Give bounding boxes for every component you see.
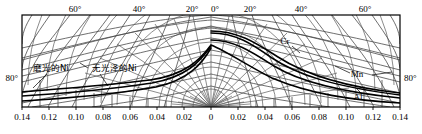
right-side-label-80deg: 80° (404, 73, 417, 83)
top-tick-label-4: 20° (244, 4, 257, 14)
bottom-tick-label-3: 0.08 (95, 112, 111, 122)
top-tick-label-3: 0° (211, 4, 220, 14)
polar-nomogram-plot: 60° 40° 20° 0° 20° 40° 60° 0.14 0.12 0.1… (0, 0, 422, 134)
bottom-tick-label-13: 0.12 (365, 112, 381, 122)
top-tick-label-5: 40° (295, 4, 308, 14)
bottom-tick-label-5: 0.04 (149, 112, 165, 122)
bottom-tick-label-0: 0.14 (14, 112, 30, 122)
bottom-tick-label-14: 0.14 (392, 112, 408, 122)
bottom-tick-label-11: 0.08 (311, 112, 327, 122)
top-tick-label-0: 60° (69, 4, 82, 14)
annotation-ni-polished: 磨光的Ni (33, 63, 69, 73)
bottom-tick-label-1: 0.12 (41, 112, 57, 122)
annotation-ni-matte: 无光泽的Ni (92, 63, 137, 73)
top-tick-label-6: 60° (359, 4, 372, 14)
annotation-cr: Cr (281, 36, 290, 46)
bottom-axis-labels: 0.14 0.12 0.10 0.08 0.06 0.04 0.02 0 0.0… (14, 112, 408, 122)
bottom-tick-label-8: 0.02 (230, 112, 246, 122)
annotation-al: Al (354, 92, 363, 102)
bottom-tick-label-2: 0.10 (68, 112, 84, 122)
bottom-tick-label-4: 0.06 (122, 112, 138, 122)
top-tick-label-2: 20° (186, 4, 199, 14)
figure-container: 60° 40° 20° 0° 20° 40° 60° 0.14 0.12 0.1… (0, 0, 422, 134)
annotation-mn: Mn (351, 69, 364, 79)
bottom-tick-label-7: 0 (209, 112, 214, 122)
bottom-tick-label-6: 0.02 (176, 112, 192, 122)
bottom-tick-label-12: 0.10 (338, 112, 354, 122)
top-tick-label-1: 40° (133, 4, 146, 14)
left-side-label-80deg: 80° (5, 73, 18, 83)
bottom-tick-label-10: 0.06 (284, 112, 300, 122)
bottom-tick-label-9: 0.04 (257, 112, 273, 122)
